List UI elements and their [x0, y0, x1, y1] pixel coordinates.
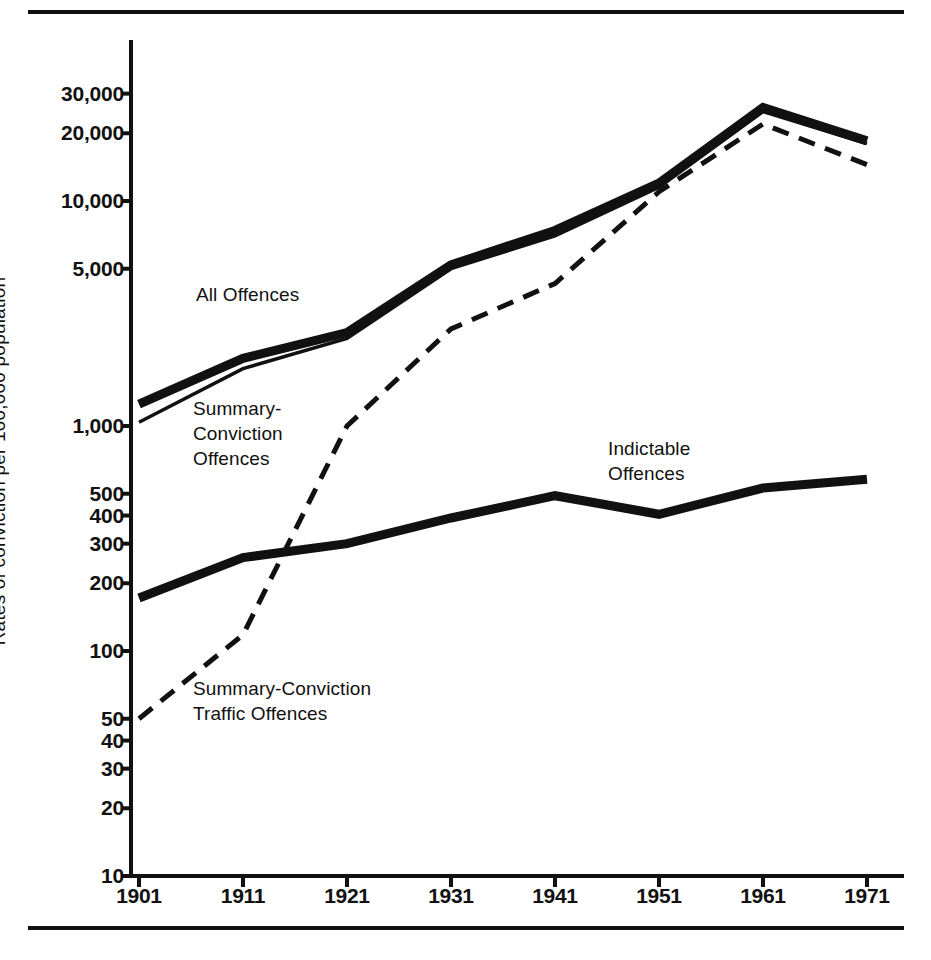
x-tick-label: 1971: [807, 884, 927, 908]
series-label-summary-conviction-offences: Summary- Conviction Offences: [193, 396, 283, 471]
x-tick-label: 1941: [495, 884, 615, 908]
x-tick-label: 1951: [599, 884, 719, 908]
figure-container: Rates of conviction per 100,000 populati…: [0, 0, 931, 960]
x-tick-label: 1911: [183, 884, 303, 908]
x-axis-tick-labels: 19011911192119311941195119611971: [0, 0, 931, 960]
x-tick-label: 1961: [703, 884, 823, 908]
series-label-all-offences: All Offences: [196, 282, 299, 307]
series-label-indictable-offences: Indictable Offences: [608, 436, 690, 486]
series-label-summary-conviction-traffic-offences: Summary-Conviction Traffic Offences: [193, 676, 371, 726]
x-tick-label: 1921: [287, 884, 407, 908]
x-tick-label: 1931: [391, 884, 511, 908]
x-tick-label: 1901: [79, 884, 199, 908]
